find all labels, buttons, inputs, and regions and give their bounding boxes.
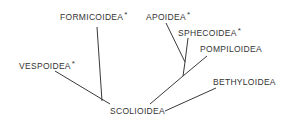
taxon-pompiloidea: POMPILOIDEA — [200, 44, 262, 54]
branch-pompiloidea — [183, 56, 207, 76]
taxon-label: FORMICOIDEA — [60, 12, 123, 22]
branch-bethyloidea — [165, 88, 216, 111]
taxon-vespoidea: VESPOIDEA* — [19, 61, 75, 72]
branch-vespoidea — [55, 71, 110, 104]
taxon-label: APOIDEA — [146, 12, 186, 22]
phylogeny-diagram: FORMICOIDEA* VESPOIDEA* APOIDEA* SPHECOI… — [0, 0, 281, 123]
asterisk-marker: * — [187, 10, 190, 19]
branch-sphecoidea — [185, 38, 188, 62]
taxon-label: POMPILOIDEA — [200, 44, 262, 54]
branch-formicoidea — [97, 27, 102, 101]
taxon-sphecoidea: SPHECOIDEA* — [178, 28, 241, 39]
asterisk-marker: * — [72, 59, 75, 68]
taxon-label: SCOLIOIDEA — [110, 106, 165, 116]
asterisk-marker: * — [124, 10, 127, 19]
taxon-label: BETHYLOIDEA — [213, 77, 276, 87]
branch-stem-right — [150, 76, 183, 104]
taxon-scolioidea-root: SCOLIOIDEA — [110, 106, 165, 116]
taxon-label: VESPOIDEA — [19, 61, 71, 71]
taxon-label: SPHECOIDEA — [178, 28, 237, 38]
taxon-bethyloidea: BETHYLOIDEA — [213, 77, 276, 87]
taxon-formicoidea: FORMICOIDEA* — [60, 12, 128, 23]
branch-apo-sphec-stem — [183, 62, 185, 76]
taxon-apoidea: APOIDEA* — [146, 12, 190, 23]
asterisk-marker: * — [238, 26, 241, 35]
